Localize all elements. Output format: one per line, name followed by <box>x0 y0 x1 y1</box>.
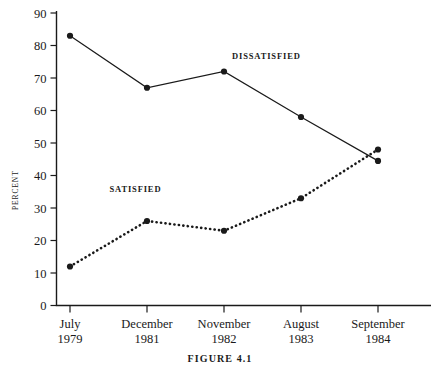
series-annotation-dissatisfied: DISSATISFIED <box>232 51 301 61</box>
data-point-marker <box>144 85 150 91</box>
data-point-marker <box>298 195 304 201</box>
data-point-marker <box>221 228 227 234</box>
y-tick-label: 30 <box>34 202 47 216</box>
series-line-satisfied <box>70 150 378 267</box>
figure-caption: FIGURE 4.1 <box>188 353 253 364</box>
x-tick-label-year: 1983 <box>289 332 314 346</box>
y-tick-label: 40 <box>34 169 47 183</box>
series-annotations: DISSATISFIEDSATISFIED <box>109 51 300 194</box>
y-tick-label: 70 <box>34 72 47 86</box>
y-tick-label: 90 <box>34 7 47 21</box>
data-point-marker <box>221 68 227 74</box>
y-tick-label: 50 <box>34 137 47 151</box>
data-point-marker <box>67 263 73 269</box>
x-tick-label-year: 1979 <box>58 332 83 346</box>
y-axis-label: PERCENT <box>11 170 20 210</box>
y-tick-label: 80 <box>34 39 47 53</box>
y-axis-ticks: 0102030405060708090 <box>34 7 57 314</box>
x-tick-label-year: 1981 <box>135 332 160 346</box>
y-tick-label: 60 <box>34 104 47 118</box>
x-tick-label-month: December <box>121 317 173 331</box>
data-point-marker <box>298 114 304 120</box>
data-point-marker <box>375 146 381 152</box>
x-tick-label-year: 1982 <box>212 332 237 346</box>
data-point-marker <box>144 218 150 224</box>
x-tick-label-month: September <box>351 317 405 331</box>
x-tick-label-year: 1984 <box>366 332 392 346</box>
data-markers-group <box>67 33 381 270</box>
x-tick-label-month: November <box>198 317 252 331</box>
y-tick-label: 20 <box>34 234 47 248</box>
x-axis-ticks: July1979December1981November1982August19… <box>58 306 406 346</box>
data-point-marker <box>67 33 73 39</box>
series-line-dissatisfied <box>70 36 378 161</box>
figure-container: 0102030405060708090 July1979December1981… <box>0 0 440 372</box>
line-chart: 0102030405060708090 July1979December1981… <box>0 0 440 372</box>
series-annotation-satisfied: SATISFIED <box>109 184 161 194</box>
data-point-marker <box>375 158 381 164</box>
x-tick-label-month: July <box>60 317 82 331</box>
y-axis-title: PERCENT <box>11 170 20 210</box>
figure-caption-text: FIGURE 4.1 <box>188 353 253 364</box>
y-tick-label: 10 <box>34 267 47 281</box>
y-tick-label: 0 <box>40 299 46 313</box>
x-tick-label-month: August <box>283 317 320 331</box>
